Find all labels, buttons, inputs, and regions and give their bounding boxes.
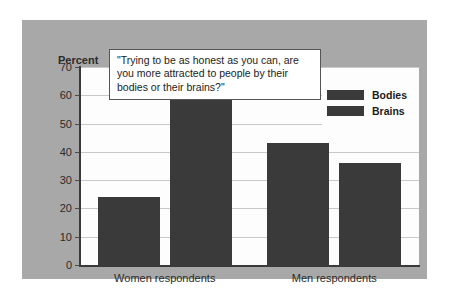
- legend-label-brains: Brains: [372, 105, 405, 117]
- y-axis-tick-label: 10: [60, 231, 72, 243]
- y-axis-tick: [75, 152, 80, 153]
- y-axis-tick-label: 20: [60, 202, 72, 214]
- legend-item-brains: Brains: [322, 103, 419, 119]
- x-axis-category-label: Men respondents: [292, 272, 377, 284]
- y-axis-tick: [75, 67, 80, 68]
- x-axis-category-label: Women respondents: [114, 272, 215, 284]
- y-axis-tick-label: 60: [60, 89, 72, 101]
- y-axis-tick-label: 40: [60, 146, 72, 158]
- x-axis-line: [79, 265, 420, 267]
- legend-swatch-brains: [327, 106, 364, 116]
- y-axis-tick-label: 0: [66, 259, 72, 271]
- y-axis-tick-label: 30: [60, 174, 72, 186]
- y-axis-tick: [75, 124, 80, 125]
- y-axis-tick-label: 50: [60, 118, 72, 130]
- y-axis-tick-label: 70: [60, 61, 72, 73]
- chart-legend: Bodies Brains: [322, 82, 419, 125]
- bar-bodies-women: [98, 197, 160, 265]
- y-axis-tick: [75, 265, 80, 266]
- legend-item-bodies: Bodies: [322, 87, 419, 103]
- chart-figure: Percent "Trying to be as honest as you c…: [0, 0, 449, 299]
- y-axis-tick: [75, 180, 80, 181]
- chart-panel: Percent "Trying to be as honest as you c…: [22, 20, 427, 279]
- bar-brains-women: [170, 95, 232, 265]
- chart-title: "Trying to be as honest as you can, are …: [117, 54, 313, 94]
- y-axis-tick: [75, 208, 80, 209]
- gridline: [80, 152, 419, 153]
- y-axis-tick: [75, 95, 80, 96]
- bar-brains-men: [339, 163, 401, 265]
- y-axis-tick: [75, 237, 80, 238]
- legend-swatch-bodies: [327, 90, 364, 100]
- question-callout-box: "Trying to be as honest as you can, are …: [109, 49, 321, 100]
- legend-label-bodies: Bodies: [372, 89, 407, 101]
- bar-bodies-men: [267, 143, 329, 265]
